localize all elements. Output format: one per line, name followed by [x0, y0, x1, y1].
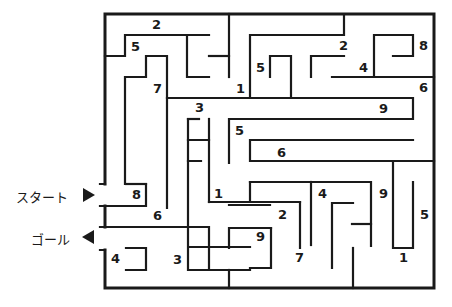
maze-number: 7	[295, 250, 304, 265]
start-label: スタート	[16, 187, 68, 206]
maze-number: 5	[131, 39, 140, 54]
start-arrow-icon	[83, 188, 95, 202]
maze-number: 1	[236, 81, 245, 96]
maze-number: 2	[278, 207, 287, 222]
maze-number: 2	[152, 17, 161, 32]
maze-board: 2 5 7 1 5 3 2 4 8 6 9 5 6 8 1 4 9 5 6 2 …	[0, 0, 452, 307]
maze-number: 5	[256, 60, 265, 75]
maze-number: 1	[399, 250, 408, 265]
maze-number: 6	[277, 145, 286, 160]
maze-number: 9	[256, 229, 265, 244]
maze-number: 7	[153, 81, 162, 96]
goal-arrow-icon	[82, 230, 94, 244]
maze-number: 4	[318, 186, 327, 201]
maze-number: 4	[359, 60, 368, 75]
maze-number: 6	[153, 208, 162, 223]
maze-number: 4	[111, 251, 120, 266]
goal-label: ゴール	[31, 229, 70, 248]
maze-walls	[100, 14, 434, 288]
maze-number: 9	[379, 101, 388, 116]
maze-number: 5	[235, 123, 244, 138]
maze-number: 2	[339, 38, 348, 53]
maze-number: 3	[195, 100, 204, 115]
maze-number: 9	[379, 186, 388, 201]
maze-number: 5	[420, 207, 429, 222]
maze-number: 6	[419, 80, 428, 95]
maze-number: 1	[214, 186, 223, 201]
maze-number: 8	[132, 187, 141, 202]
maze-number: 3	[173, 252, 182, 267]
maze-number: 8	[419, 38, 428, 53]
